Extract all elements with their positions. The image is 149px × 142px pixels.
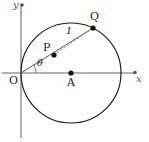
point-dot-P <box>51 52 56 57</box>
segment-chord-P-to-Q <box>54 28 93 55</box>
y-axis-label: y <box>13 0 19 10</box>
geometry-diagram <box>0 0 149 142</box>
y-axis-arrow-cap <box>20 3 24 7</box>
theta-arc <box>34 65 36 73</box>
point-dot-A <box>68 70 73 75</box>
x-axis-label: x <box>136 74 142 84</box>
length-annotation-1: 1 <box>66 26 72 36</box>
point-label-A: A <box>67 77 75 88</box>
segment-ray-O-to-Q <box>21 28 93 73</box>
point-label-P: P <box>43 42 50 53</box>
point-dot-Q <box>90 25 95 30</box>
angle-annotation-theta: θ <box>37 58 43 68</box>
point-label-Q: Q <box>90 11 99 22</box>
figure-canvas: y x O A P Q 1 θ <box>0 0 149 142</box>
point-label-O: O <box>9 75 18 86</box>
